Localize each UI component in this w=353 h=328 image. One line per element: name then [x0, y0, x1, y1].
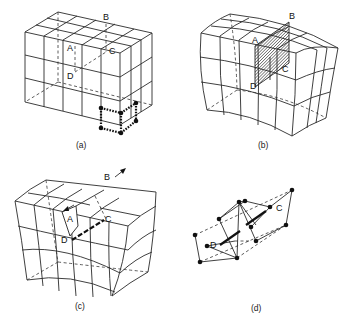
- label-D: D: [67, 71, 74, 81]
- panel-c: B A C D (c): [15, 168, 156, 311]
- slip-arrow-icon: [63, 168, 126, 211]
- caption-d: (d): [251, 303, 262, 313]
- panel-b: B A C D (b): [200, 11, 338, 150]
- label-C: C: [282, 64, 289, 74]
- label-C: C: [105, 214, 112, 224]
- label-D: D: [61, 235, 68, 245]
- panel-a-burgers-cell: [99, 101, 139, 136]
- label-B: B: [104, 172, 110, 182]
- panel-c-right-face: [112, 192, 156, 296]
- label-A: A: [67, 43, 73, 53]
- label-B: B: [103, 12, 109, 22]
- caption-c: (c): [75, 301, 85, 311]
- panel-b-right-face: [292, 48, 338, 136]
- panel-d-atoms: [193, 188, 295, 265]
- panel-b-slip-plane: [255, 22, 289, 87]
- label-A: A: [67, 214, 73, 224]
- label-B: B: [289, 11, 295, 21]
- label-C: C: [276, 203, 283, 213]
- label-C: C: [109, 46, 116, 56]
- label-D: D: [210, 240, 217, 250]
- panel-d-dislocation-line: [220, 211, 266, 245]
- label-D: D: [250, 81, 257, 91]
- panel-d: D C (d): [193, 188, 295, 313]
- label-A: A: [252, 35, 258, 45]
- caption-b: (b): [258, 140, 269, 150]
- caption-a: (a): [76, 140, 87, 150]
- panel-a: B A C D (a): [25, 12, 152, 150]
- dislocation-figure: B A C D (a): [0, 0, 353, 328]
